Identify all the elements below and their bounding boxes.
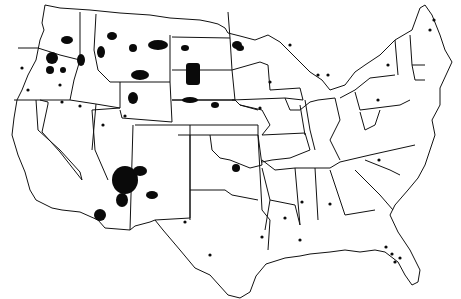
us-map bbox=[0, 0, 461, 299]
us-map-canvas bbox=[0, 0, 461, 299]
